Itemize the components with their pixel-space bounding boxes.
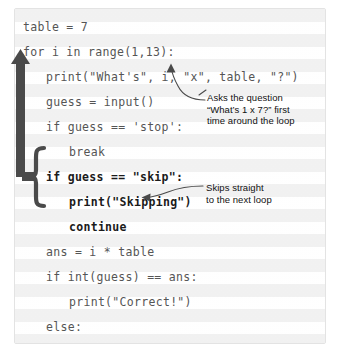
code-line: break: [15, 140, 325, 165]
callout-question-note: Asks the question “What’s 1 x 7?” first …: [207, 92, 295, 127]
code-line: if int(guess) == ans:: [15, 265, 325, 290]
code-line: print("Correct!"): [15, 290, 325, 315]
callout-skip-note: Skips straight to the next loop: [206, 182, 272, 205]
code-listing: table = 7for i in range(1,13):print("Wha…: [15, 15, 325, 344]
code-line: ans = i * table: [15, 240, 325, 265]
code-line: if guess == "skip":: [15, 165, 325, 190]
code-panel: table = 7for i in range(1,13):print("Wha…: [14, 8, 326, 344]
code-line: else:: [15, 315, 325, 340]
figure-root: table = 7for i in range(1,13):print("Wha…: [0, 0, 340, 353]
code-line: continue: [15, 215, 325, 240]
code-line: print("No, it's", ans): [15, 340, 325, 344]
code-line: print("Skipping"): [15, 190, 325, 215]
code-line: table = 7: [15, 15, 325, 40]
code-line: print("What's", i, "x", table, "?"): [15, 65, 325, 90]
code-line: for i in range(1,13):: [15, 40, 325, 65]
